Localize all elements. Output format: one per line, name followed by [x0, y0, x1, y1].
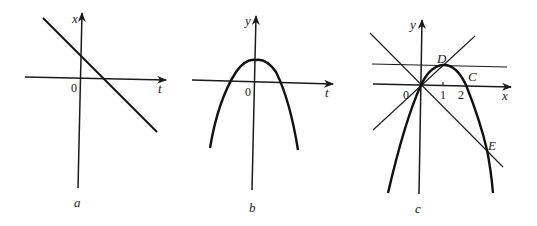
caption-b: b: [249, 200, 256, 215]
point-label-c: C: [468, 69, 477, 84]
caption-c: c: [415, 201, 421, 216]
tick-label-2: 2: [458, 88, 464, 102]
origin-label: 0: [71, 81, 77, 95]
horizontal-axis-label: t: [325, 85, 329, 100]
caption-a: a: [74, 195, 81, 210]
positive-slope-line: [373, 36, 475, 130]
figure-a: x t 0 a: [25, 11, 166, 210]
point-label-e: E: [487, 138, 496, 153]
vertical-axis-label: y: [408, 17, 416, 32]
decreasing-line: [43, 18, 157, 132]
point-label-d: D: [436, 51, 447, 66]
vertical-axis-label: x: [71, 11, 78, 26]
diagram-canvas: x t 0 a y t 0 b y x 0 1 2 D C E c: [0, 0, 537, 226]
origin-label: 0: [403, 88, 409, 102]
origin-label: 0: [245, 85, 251, 99]
x-axis: [373, 84, 511, 87]
horizontal-axis-label: t: [158, 81, 162, 96]
t-axis: [25, 77, 166, 80]
x-axis-vertical: [78, 13, 82, 188]
y-axis: [252, 16, 256, 190]
tick-label-1: 1: [440, 88, 446, 102]
horizontal-axis-label: x: [501, 88, 508, 103]
y-axis: [419, 20, 422, 194]
vertical-axis-label: y: [243, 13, 251, 28]
t-axis: [192, 80, 333, 84]
figure-b: y t 0 b: [192, 13, 333, 215]
figure-c: y x 0 1 2 D C E c: [370, 17, 511, 216]
